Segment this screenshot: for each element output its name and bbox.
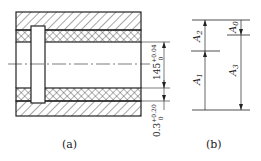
label-a0: A0	[227, 21, 240, 34]
label-a1: A1	[191, 73, 204, 86]
caption-a: (a)	[62, 138, 77, 151]
label-a2: A2	[191, 30, 204, 43]
dimension-0.3-label: 0.3+0.200	[150, 104, 164, 137]
caption-b: (b)	[206, 138, 222, 151]
dimension-145-label: 145+0.040	[150, 44, 164, 80]
drawing-canvas: 145+0.040 0.3+0.200 A2 A1 A0 A3	[0, 0, 261, 161]
label-a3: A3	[227, 64, 240, 77]
pin-part	[31, 26, 45, 103]
figure-a-section-view	[8, 12, 170, 116]
